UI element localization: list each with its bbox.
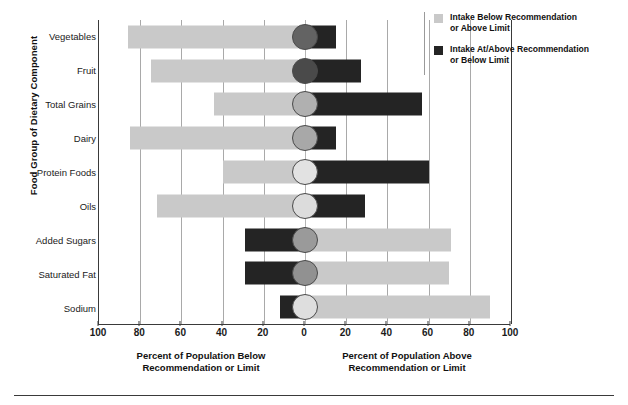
legend: Intake Below Recommendation or Above Lim… bbox=[424, 12, 624, 75]
bar-left bbox=[151, 59, 306, 82]
tickmark-20 bbox=[345, 321, 346, 326]
x-axis-caption-right: Percent of Population Above Recommendati… bbox=[312, 350, 502, 374]
bar-right bbox=[305, 262, 449, 285]
tickmark-0 bbox=[304, 321, 305, 326]
bar-left bbox=[128, 25, 305, 48]
category-label-protein-foods: Protein Foods bbox=[18, 156, 102, 190]
tickmark--60 bbox=[180, 321, 181, 326]
x-axis-caption-left: Percent of Population Below Recommendati… bbox=[106, 350, 296, 374]
tickmark-80 bbox=[468, 321, 469, 326]
tick-label-5: 0 bbox=[301, 327, 307, 338]
legend-item-at-above-recommendation[interactable]: Intake At/Above Recommendation or Below … bbox=[434, 44, 624, 67]
bar-left bbox=[157, 194, 305, 217]
tickmark-40 bbox=[386, 321, 387, 326]
zero-marker bbox=[292, 294, 318, 320]
tick-label-8: 60 bbox=[422, 327, 433, 338]
bar-row bbox=[99, 290, 510, 324]
category-label-dairy: Dairy bbox=[18, 122, 102, 156]
diverging-bar-chart: Food Group of Dietary Component Vegetabl… bbox=[0, 0, 628, 405]
legend-label-below-recommendation: Intake Below Recommendation or Above Lim… bbox=[450, 12, 577, 35]
category-label-total-grains: Total Grains bbox=[18, 88, 102, 122]
tickmark--40 bbox=[221, 321, 222, 326]
tick-label-4: 20 bbox=[257, 327, 268, 338]
bottom-divider bbox=[14, 395, 614, 396]
tickmark-100 bbox=[510, 321, 511, 326]
category-label-fruit: Fruit bbox=[18, 54, 102, 88]
zero-marker bbox=[292, 24, 318, 50]
legend-label-at-above-recommendation: Intake At/Above Recommendation or Below … bbox=[450, 44, 589, 67]
bar-row bbox=[99, 155, 510, 189]
tick-label-3: 40 bbox=[216, 327, 227, 338]
bar-right bbox=[305, 93, 422, 116]
tick-label-6: 20 bbox=[340, 327, 351, 338]
legend-item-below-recommendation[interactable]: Intake Below Recommendation or Above Lim… bbox=[434, 12, 624, 35]
bar-row bbox=[99, 189, 510, 223]
zero-marker bbox=[292, 125, 318, 151]
tickmark--80 bbox=[139, 321, 140, 326]
zero-marker bbox=[292, 91, 318, 117]
tick-label-10: 100 bbox=[502, 327, 519, 338]
zero-marker bbox=[292, 159, 318, 185]
zero-marker bbox=[292, 260, 318, 286]
category-label-oils: Oils bbox=[18, 189, 102, 223]
bar-right bbox=[305, 296, 490, 319]
legend-swatch-at-above-recommendation bbox=[434, 46, 443, 55]
bar-row bbox=[99, 256, 510, 290]
category-label-column: VegetablesFruitTotal GrainsDairyProtein … bbox=[18, 20, 102, 325]
bar-left bbox=[130, 127, 305, 150]
x-axis-ticks: 10080604020020406080100 bbox=[98, 327, 510, 343]
tickmark--100 bbox=[98, 321, 99, 326]
zero-marker bbox=[292, 193, 318, 219]
bar-right bbox=[305, 228, 451, 251]
legend-swatch-below-recommendation bbox=[434, 14, 443, 23]
tick-label-2: 60 bbox=[175, 327, 186, 338]
bar-right bbox=[305, 161, 429, 184]
zero-marker bbox=[292, 227, 318, 253]
bar-row bbox=[99, 88, 510, 122]
tick-label-0: 100 bbox=[90, 327, 107, 338]
bar-row bbox=[99, 223, 510, 257]
tickmark-60 bbox=[427, 321, 428, 326]
category-label-sodium: Sodium bbox=[18, 291, 102, 325]
zero-marker bbox=[292, 58, 318, 84]
tickmark--20 bbox=[262, 321, 263, 326]
bar-row bbox=[99, 121, 510, 155]
category-label-vegetables: Vegetables bbox=[18, 20, 102, 54]
category-label-saturated-fat: Saturated Fat bbox=[18, 257, 102, 291]
tick-label-7: 40 bbox=[381, 327, 392, 338]
category-label-added-sugars: Added Sugars bbox=[18, 223, 102, 257]
tick-label-9: 80 bbox=[463, 327, 474, 338]
tick-label-1: 80 bbox=[134, 327, 145, 338]
